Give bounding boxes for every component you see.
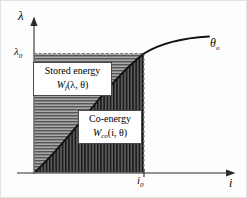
co-energy-formula: Wco(i, θ) (83, 127, 137, 141)
energy-coenergy-diagram: λ λ0 i i0 θo Stored energy Wf(λ, θ) Co-e… (0, 0, 247, 198)
stored-energy-formula: Wf(λ, θ) (38, 79, 107, 93)
stored-energy-title: Stored energy (38, 65, 107, 78)
co-energy-arguments: (i, θ) (108, 127, 127, 138)
co-energy-title: Co-energy (83, 113, 137, 126)
stored-energy-arguments: (λ, θ) (67, 79, 88, 90)
stored-energy-label-box: Stored energy Wf(λ, θ) (33, 62, 112, 96)
co-energy-symbol: W (93, 127, 101, 138)
stored-energy-symbol: W (57, 79, 65, 90)
co-energy-subscript: co (101, 131, 108, 139)
co-energy-label-box: Co-energy Wco(i, θ) (78, 110, 142, 144)
plot-canvas (1, 1, 247, 198)
